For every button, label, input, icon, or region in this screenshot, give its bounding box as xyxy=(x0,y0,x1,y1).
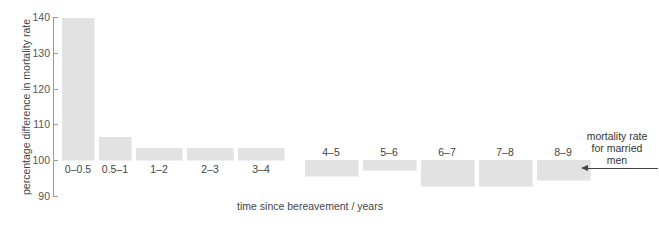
y-axis-tick-120 xyxy=(54,89,58,90)
bar-3-4 xyxy=(238,148,285,161)
y-axis-tick-110 xyxy=(54,124,58,125)
annotation-line-2: for married xyxy=(578,142,656,154)
x-axis-label-6-7: 6–7 xyxy=(425,146,469,158)
x-axis-label-4-5: 4–5 xyxy=(309,146,353,158)
x-axis-label-3-4: 3–4 xyxy=(239,163,283,175)
bar-7-8 xyxy=(479,160,533,187)
y-axis-line xyxy=(53,17,54,197)
annotation-line-3: men xyxy=(578,154,656,166)
x-axis-label-0.5-1: 0.5–1 xyxy=(93,163,137,175)
bar-6-7 xyxy=(421,160,475,187)
y-axis-tick-100 xyxy=(54,160,58,161)
y-axis-tick-90 xyxy=(54,196,58,197)
y-axis-title: percentage difference in mortality rate xyxy=(20,17,32,197)
x-axis-label-7-8: 7–8 xyxy=(483,146,527,158)
plot-area: 140 130 120 110 100 90 percentage differ… xyxy=(0,0,659,226)
bar-1-2 xyxy=(136,148,183,161)
bar-5-6 xyxy=(363,160,417,171)
x-axis-label-2-3: 2–3 xyxy=(188,163,232,175)
y-axis-tick-140 xyxy=(54,17,58,18)
x-axis-title: time since bereavement / years xyxy=(180,200,440,212)
chart-figure: 140 130 120 110 100 90 percentage differ… xyxy=(0,0,659,226)
x-axis-label-5-6: 5–6 xyxy=(367,146,411,158)
bar-2-3 xyxy=(187,148,234,161)
bar-4-5 xyxy=(305,160,359,177)
annotation-arrow-line xyxy=(588,168,658,169)
y-axis-tick-130 xyxy=(54,53,58,54)
bar-0-0.5 xyxy=(62,18,95,161)
bar-0.5-1 xyxy=(99,137,132,161)
x-axis-label-1-2: 1–2 xyxy=(137,163,181,175)
annotation-line-1: mortality rate xyxy=(578,130,656,142)
annotation-arrow-head-icon xyxy=(581,165,588,171)
